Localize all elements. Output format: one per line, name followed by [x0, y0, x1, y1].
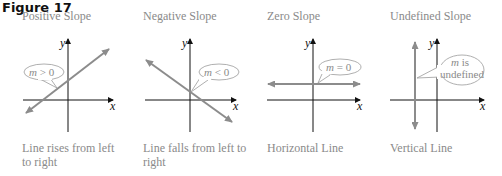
callout-text: m > 0 [29, 66, 55, 78]
x-axis-label: x [232, 99, 239, 113]
callout-text-line1: m is [451, 56, 469, 68]
panel-zero-slope: y x m = 0 [267, 36, 363, 132]
x-axis-label: x [479, 99, 486, 113]
x-axis-label: x [356, 99, 363, 113]
y-axis-label: y [428, 36, 435, 50]
callout-bubble: m = 0 [318, 59, 361, 83]
callout-bubble: m is undefined [417, 55, 484, 85]
caption-undefined: Vertical Line [390, 141, 490, 155]
panel-positive-slope: y x m > 0 [23, 36, 116, 132]
callout-text: m = 0 [326, 61, 352, 73]
panel-undefined-slope: y x m is undefined [390, 36, 486, 132]
caption-negative: Line falls from left to right [143, 141, 247, 169]
callout-bubble: m < 0 [191, 64, 239, 92]
y-axis-label: y [304, 36, 311, 50]
caption-positive: Line rises from left to right [22, 141, 122, 169]
y-axis-label: y [181, 36, 188, 50]
callout-text: m < 0 [204, 66, 230, 78]
callout-bubble: m > 0 [24, 64, 64, 88]
x-axis-label: x [109, 99, 116, 113]
y-axis-label: y [59, 36, 66, 50]
callout-text-line2: undefined [440, 68, 484, 80]
caption-zero: Horizontal Line [267, 141, 367, 155]
panel-negative-slope: y x m < 0 [145, 36, 239, 132]
